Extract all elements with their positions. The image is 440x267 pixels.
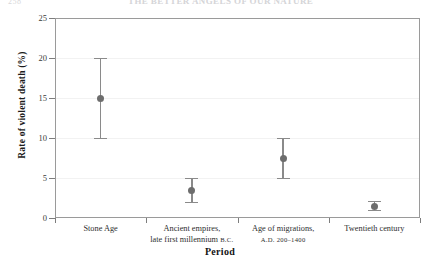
- x-tick-label: Ancient empires,late first millennium B.…: [146, 224, 237, 245]
- gridline: [56, 178, 419, 179]
- running-head: 258 THE BETTER ANGELS OF OUR NATURE: [0, 0, 440, 9]
- y-tick: [49, 98, 55, 99]
- x-tick: [329, 218, 330, 223]
- x-tick: [55, 218, 56, 223]
- y-tick-label: 15: [3, 93, 47, 103]
- figure-container: 258 THE BETTER ANGELS OF OUR NATURE Rate…: [0, 0, 440, 267]
- y-tick: [49, 18, 55, 19]
- error-bar-cap: [185, 178, 198, 179]
- y-tick-label: 5: [3, 173, 47, 183]
- y-axis-labels: 0510152025: [0, 0, 47, 267]
- error-bar-cap: [277, 138, 290, 139]
- x-tick-label: Stone Age: [55, 224, 146, 235]
- x-tick: [146, 218, 147, 223]
- error-bar-cap: [94, 138, 107, 139]
- data-point-marker: [280, 155, 287, 162]
- gridline: [56, 58, 419, 59]
- x-tick: [238, 218, 239, 223]
- error-bar-cap: [368, 210, 381, 211]
- error-bar-cap: [277, 178, 290, 179]
- data-point-marker: [371, 203, 378, 210]
- x-tick-label: Age of migrations,A.D. 200–1400: [238, 224, 329, 245]
- gridline: [56, 138, 419, 139]
- y-tick-label: 10: [3, 133, 47, 143]
- plot-area: [55, 18, 420, 218]
- y-tick: [49, 138, 55, 139]
- data-point-marker: [97, 95, 104, 102]
- y-tick: [49, 58, 55, 59]
- running-head-title: THE BETTER ANGELS OF OUR NATURE: [128, 0, 313, 6]
- error-bar-cap: [94, 58, 107, 59]
- x-tick: [420, 218, 421, 223]
- x-axis-title: Period: [0, 246, 440, 257]
- y-tick-label: 25: [3, 13, 47, 23]
- y-tick-label: 0: [3, 213, 47, 223]
- x-tick-label: Twentieth century: [329, 224, 420, 235]
- y-tick: [49, 178, 55, 179]
- gridline: [56, 98, 419, 99]
- error-bar-cap: [185, 202, 198, 203]
- y-tick-label: 20: [3, 53, 47, 63]
